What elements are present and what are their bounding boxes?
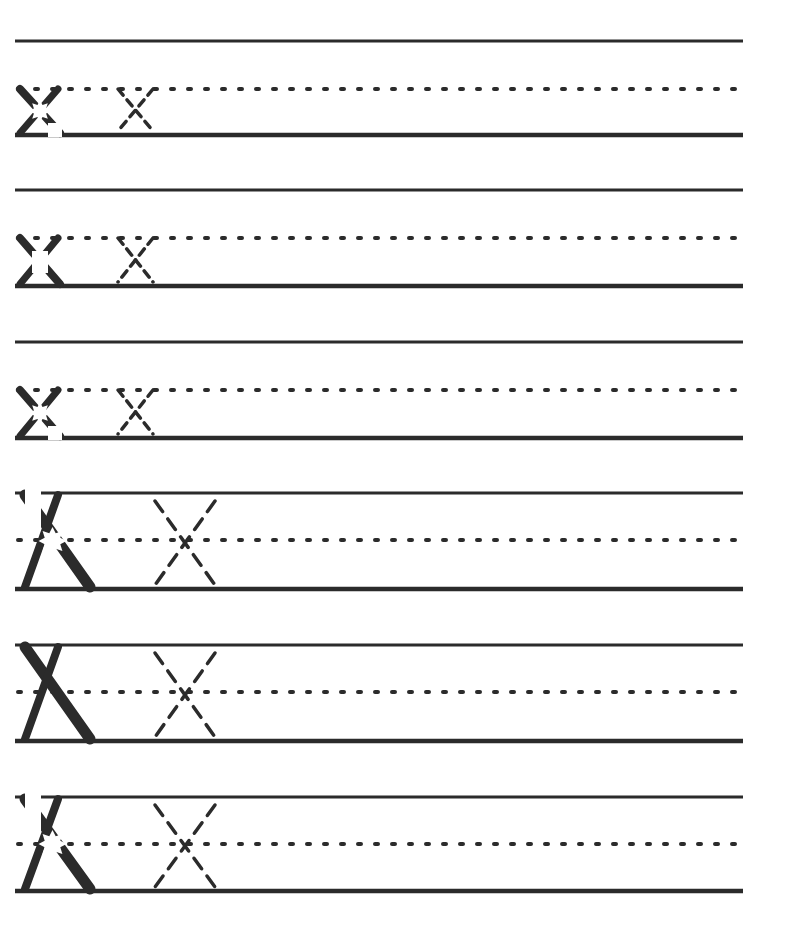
model-letter-x — [20, 89, 62, 137]
practice-lines — [0, 0, 787, 942]
model-letter-x — [25, 489, 90, 587]
trace-letter-x — [118, 390, 153, 434]
handwriting-worksheet — [0, 0, 787, 942]
model-letter-x — [25, 793, 90, 889]
model-letter-x — [20, 238, 60, 284]
trace-letter-x — [118, 89, 153, 131]
model-letter-x — [20, 390, 62, 440]
trace-letter-x — [155, 501, 215, 585]
trace-letter-x — [118, 238, 153, 282]
trace-letter-x — [155, 653, 215, 737]
